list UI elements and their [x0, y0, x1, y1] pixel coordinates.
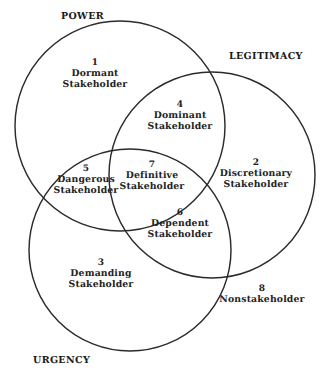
set-label-power: POWER: [61, 12, 104, 22]
region-dependent-stakeholder: 6 Dependent Stakeholder: [148, 208, 213, 241]
region-dormant-stakeholder: 1 Dormant Stakeholder: [63, 58, 128, 91]
region-label-line-2b: Stakeholder: [220, 180, 292, 191]
region-number-3: 3: [69, 258, 134, 268]
region-number-5: 5: [54, 164, 119, 174]
stakeholder-venn-diagram: POWER LEGITIMACY URGENCY 1 Dormant Stake…: [0, 0, 331, 384]
region-label-line-6b: Stakeholder: [148, 230, 213, 241]
region-number-8: 8: [219, 284, 304, 294]
set-label-legitimacy: LEGITIMACY: [229, 52, 303, 62]
region-definitive-stakeholder: 7 Definitive Stakeholder: [120, 160, 185, 193]
region-label-line-3b: Stakeholder: [69, 280, 134, 291]
region-discretionary-stakeholder: 2 Discretionary Stakeholder: [220, 158, 292, 191]
region-nonstakeholder: 8 Nonstakeholder: [219, 284, 304, 306]
region-label-line-8a: Nonstakeholder: [219, 295, 304, 306]
region-label-line-5b: Stakeholder: [54, 186, 119, 197]
region-number-6: 6: [148, 208, 213, 218]
region-number-7: 7: [120, 160, 185, 170]
region-label-line-4b: Stakeholder: [148, 122, 213, 133]
set-label-urgency: URGENCY: [33, 356, 90, 366]
region-number-2: 2: [220, 158, 292, 168]
region-dangerous-stakeholder: 5 Dangerous Stakeholder: [54, 164, 119, 197]
region-number-4: 4: [148, 100, 213, 110]
region-dominant-stakeholder: 4 Dominant Stakeholder: [148, 100, 213, 133]
region-demanding-stakeholder: 3 Demanding Stakeholder: [69, 258, 134, 291]
region-number-1: 1: [63, 58, 128, 68]
region-label-line-7b: Stakeholder: [120, 182, 185, 193]
region-label-line-1b: Stakeholder: [63, 80, 128, 91]
